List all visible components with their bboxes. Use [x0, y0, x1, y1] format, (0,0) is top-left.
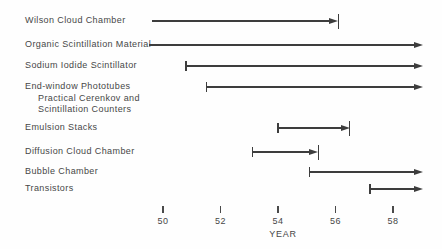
arrow-head-icon: [414, 42, 423, 48]
x-axis-tick-label: 58: [378, 216, 408, 226]
timeline-bar-wilson-cloud-chamber: [152, 20, 330, 22]
x-axis-tick: [162, 206, 163, 213]
end-cap-diffusion-cloud-chamber: [318, 145, 319, 160]
row-label-line: End-window Phototubes: [25, 81, 140, 93]
row-label-line: Scintillation Counters: [25, 104, 140, 116]
end-cap-wilson-cloud-chamber: [338, 14, 339, 29]
start-cap-emulsion-stacks: [277, 123, 278, 133]
start-cap-sodium-iodide-scintillator: [185, 61, 186, 71]
start-cap-diffusion-cloud-chamber: [252, 147, 253, 157]
row-label-line: Organic Scintillation Material: [25, 39, 151, 51]
timeline-bar-organic-scintillation-material: [149, 44, 414, 46]
x-axis-tick-label: 52: [206, 216, 236, 226]
row-label-line: Wilson Cloud Chamber: [25, 15, 126, 27]
start-cap-transistors: [369, 184, 370, 194]
row-label-line: Practical Cerenkov and: [25, 93, 140, 105]
x-axis-tick: [220, 206, 221, 213]
x-axis-tick-label: 54: [263, 216, 293, 226]
timeline-bar-emulsion-stacks: [278, 127, 341, 129]
x-axis-tick: [277, 206, 278, 213]
row-label-transistors: Transistors: [25, 183, 74, 195]
arrow-head-icon: [414, 84, 423, 90]
row-label-line: Bubble Chamber: [25, 166, 98, 178]
start-cap-end-window-phototubes: [206, 82, 207, 92]
timeline-bar-diffusion-cloud-chamber: [252, 151, 309, 153]
timeline-bar-end-window-phototubes: [206, 86, 414, 88]
timeline-bar-bubble-chamber: [310, 171, 414, 173]
arrow-head-icon: [414, 169, 423, 175]
row-label-line: Emulsion Stacks: [25, 122, 98, 134]
row-label-wilson-cloud-chamber: Wilson Cloud Chamber: [25, 15, 126, 27]
timeline-bar-transistors: [370, 188, 414, 190]
row-label-diffusion-cloud-chamber: Diffusion Cloud Chamber: [25, 146, 135, 158]
row-label-organic-scintillation-material: Organic Scintillation Material: [25, 39, 151, 51]
x-axis-label: YEAR: [253, 229, 313, 239]
row-label-sodium-iodide-scintillator: Sodium Iodide Scintillator: [25, 60, 137, 72]
arrow-head-icon: [414, 186, 423, 192]
timeline-chart: YEAR Wilson Cloud ChamberOrganic Scintil…: [0, 0, 442, 249]
timeline-bar-sodium-iodide-scintillator: [186, 65, 414, 67]
row-label-line: Transistors: [25, 183, 74, 195]
x-axis-tick: [392, 206, 393, 213]
arrow-head-icon: [414, 63, 423, 69]
row-label-line: Diffusion Cloud Chamber: [25, 146, 135, 158]
start-cap-bubble-chamber: [309, 167, 310, 177]
x-axis-tick-label: 50: [148, 216, 178, 226]
x-axis-tick: [335, 206, 336, 213]
row-label-emulsion-stacks: Emulsion Stacks: [25, 122, 98, 134]
row-label-line: Sodium Iodide Scintillator: [25, 60, 137, 72]
end-cap-emulsion-stacks: [349, 121, 350, 136]
row-label-end-window-phototubes: End-window PhototubesPractical Cerenkov …: [25, 81, 140, 116]
x-axis-tick-label: 56: [321, 216, 351, 226]
row-label-bubble-chamber: Bubble Chamber: [25, 166, 98, 178]
